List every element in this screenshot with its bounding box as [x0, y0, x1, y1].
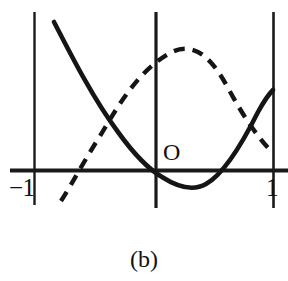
x-axis-tick-label-minus-one: −1	[9, 175, 35, 200]
graph-plot-area	[0, 0, 288, 281]
origin-label: O	[163, 140, 180, 164]
figure-container: −1 1 O (b)	[0, 0, 288, 281]
x-axis-tick-label-one: 1	[266, 175, 279, 200]
figure-caption: (b)	[0, 246, 288, 273]
